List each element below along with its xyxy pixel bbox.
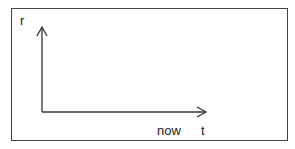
axes [0,0,295,149]
x-axis-arrow [42,107,206,117]
y-axis-label: r [20,14,24,27]
x-axis-label: t [201,124,205,137]
y-axis-arrow [37,27,47,112]
now-marker-label: now [157,124,181,137]
